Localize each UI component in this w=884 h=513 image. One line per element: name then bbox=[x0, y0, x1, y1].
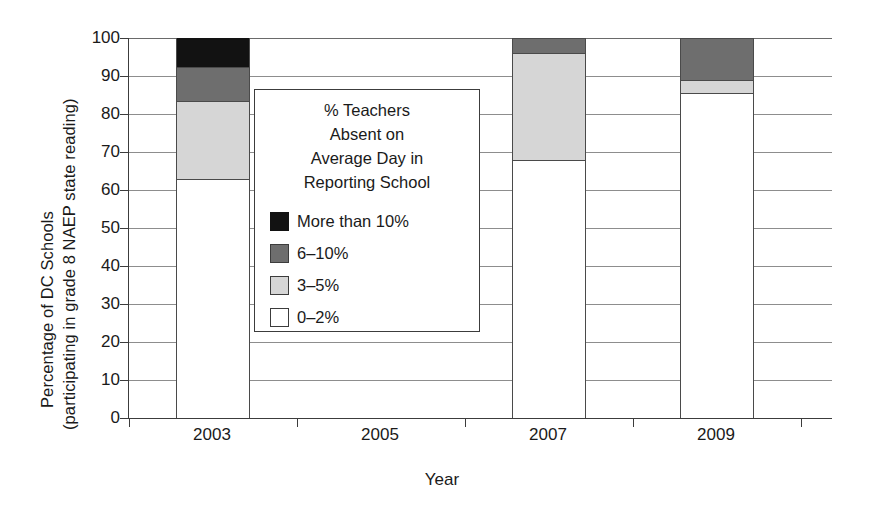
x-tick-edge-2 bbox=[465, 418, 466, 427]
legend-swatch-light-gray-icon bbox=[270, 276, 289, 295]
bar-2007-segment-3-5[interactable] bbox=[513, 53, 585, 159]
y-tick-label-30: 30 bbox=[58, 294, 120, 314]
legend-items: More than 10% 6–10% 3–5% 0–2% bbox=[255, 205, 479, 333]
x-tick-edge-4 bbox=[801, 418, 802, 427]
bar-2003[interactable] bbox=[176, 38, 250, 418]
x-tick-edge-3 bbox=[633, 418, 634, 427]
y-axis-title-line-1: Percentage of DC Schools bbox=[38, 211, 57, 408]
y-tick-label-70: 70 bbox=[58, 142, 120, 162]
bar-2007[interactable] bbox=[512, 38, 586, 418]
legend-item-6-10[interactable]: 6–10% bbox=[270, 237, 479, 269]
x-axis-title: Year bbox=[0, 470, 884, 490]
legend-label-more-than-10: More than 10% bbox=[297, 212, 409, 231]
y-tick-80 bbox=[120, 114, 129, 115]
legend-title-line-2: Absent on bbox=[255, 122, 479, 146]
legend-label-3-5: 3–5% bbox=[297, 276, 339, 295]
y-tick-label-50: 50 bbox=[58, 218, 120, 238]
y-tick-0 bbox=[120, 418, 129, 419]
legend-item-0-2[interactable]: 0–2% bbox=[270, 301, 479, 333]
legend-title-line-1: % Teachers bbox=[255, 98, 479, 122]
bar-2009-segment-3-5[interactable] bbox=[681, 80, 753, 93]
bar-2009-segment-0-2[interactable] bbox=[681, 93, 753, 418]
bar-2003-segment-0-2[interactable] bbox=[177, 179, 249, 418]
y-tick-100 bbox=[120, 38, 129, 39]
bar-2009[interactable] bbox=[680, 38, 754, 418]
legend-swatch-black-icon bbox=[270, 212, 289, 231]
x-tick-label-2003: 2003 bbox=[152, 425, 272, 445]
y-axis-tick-labels: 100 90 80 70 60 50 40 30 20 10 0 bbox=[58, 38, 120, 418]
bar-2003-segment-3-5[interactable] bbox=[177, 101, 249, 179]
y-tick-label-0: 0 bbox=[58, 408, 120, 428]
y-tick-30 bbox=[120, 304, 129, 305]
legend-item-more-than-10[interactable]: More than 10% bbox=[270, 205, 479, 237]
legend-label-6-10: 6–10% bbox=[297, 244, 348, 263]
x-axis-baseline bbox=[129, 418, 832, 419]
x-tick-label-2009: 2009 bbox=[656, 425, 776, 445]
y-tick-label-40: 40 bbox=[58, 256, 120, 276]
y-tick-label-60: 60 bbox=[58, 180, 120, 200]
bar-2007-segment-0-2[interactable] bbox=[513, 160, 585, 418]
y-tick-label-90: 90 bbox=[58, 66, 120, 86]
x-tick-edge-0 bbox=[129, 418, 130, 427]
y-tick-40 bbox=[120, 266, 129, 267]
y-tick-label-80: 80 bbox=[58, 104, 120, 124]
bar-2003-segment-more-than-10[interactable] bbox=[177, 38, 249, 67]
bar-2003-segment-6-10[interactable] bbox=[177, 67, 249, 101]
bar-2007-segment-6-10[interactable] bbox=[513, 38, 585, 53]
y-tick-label-20: 20 bbox=[58, 332, 120, 352]
y-tick-60 bbox=[120, 190, 129, 191]
y-tick-10 bbox=[120, 380, 129, 381]
legend-title-line-3: Average Day in bbox=[255, 146, 479, 170]
x-tick-edge-1 bbox=[297, 418, 298, 427]
y-tick-label-10: 10 bbox=[58, 370, 120, 390]
chart-figure: Percentage of DC Schools (participating … bbox=[0, 0, 884, 513]
y-tick-label-100: 100 bbox=[58, 28, 120, 48]
x-tick-label-2007: 2007 bbox=[488, 425, 608, 445]
x-tick-label-2005: 2005 bbox=[320, 425, 440, 445]
legend-swatch-white-icon bbox=[270, 308, 289, 327]
legend-swatch-dark-gray-icon bbox=[270, 244, 289, 263]
y-tick-70 bbox=[120, 152, 129, 153]
y-tick-20 bbox=[120, 342, 129, 343]
legend: % Teachers Absent on Average Day in Repo… bbox=[254, 89, 480, 332]
legend-label-0-2: 0–2% bbox=[297, 308, 339, 327]
y-tick-50 bbox=[120, 228, 129, 229]
y-tick-90 bbox=[120, 76, 129, 77]
bar-2009-segment-6-10[interactable] bbox=[681, 38, 753, 80]
legend-item-3-5[interactable]: 3–5% bbox=[270, 269, 479, 301]
legend-title-line-4: Reporting School bbox=[255, 170, 479, 194]
